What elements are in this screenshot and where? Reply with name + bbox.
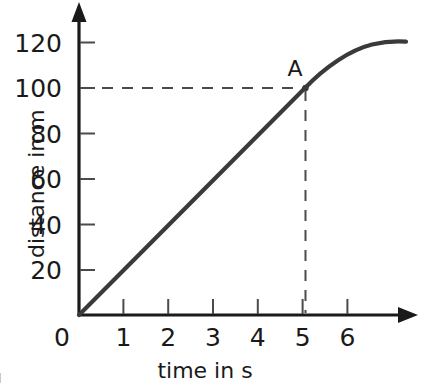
xtick-label-6: 6 (339, 325, 355, 350)
point-a-marker (302, 85, 308, 91)
y-axis-ticks (80, 43, 95, 271)
xtick-label-1: 1 (115, 325, 131, 350)
xtick-label-3: 3 (205, 325, 221, 350)
data-curve (79, 41, 406, 315)
y-axis-title: distance in m (24, 109, 49, 258)
distance-time-chart: 120 100 80 60 40 20 0 1 2 3 4 5 6 distan… (0, 0, 428, 383)
ytick-label-120: 120 (0, 30, 62, 55)
xtick-label-4: 4 (250, 325, 266, 350)
point-a-label: A (287, 56, 302, 81)
x-axis-title: time in s (157, 358, 252, 383)
xtick-label-5: 5 (295, 325, 311, 350)
xtick-label-0: 0 (54, 325, 70, 350)
x-axis-ticks (123, 299, 347, 314)
ytick-label-20: 20 (0, 258, 62, 283)
ytick-label-100: 100 (0, 76, 62, 101)
x-axis (78, 307, 418, 323)
xtick-label-2: 2 (160, 325, 176, 350)
y-axis (72, 2, 87, 316)
